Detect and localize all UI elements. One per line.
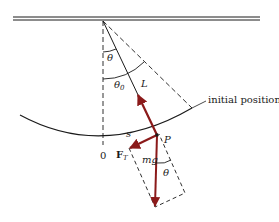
tension-vector-arrow — [138, 95, 157, 135]
pendulum-diagram: θ θ0 L initial position s 0 P FT mg θ — [0, 0, 279, 222]
theta-bottom-angle-arc — [157, 160, 171, 163]
ceiling-support — [13, 17, 260, 20]
initial-position-line — [103, 21, 192, 108]
length-label: L — [140, 78, 148, 89]
theta0-label: θ0 — [114, 79, 125, 92]
weight-label: mg — [142, 154, 158, 165]
arc-length-label: s — [126, 128, 131, 139]
bob-point — [155, 133, 159, 137]
origin-label: 0 — [100, 150, 106, 161]
weight-vector-arrow — [155, 135, 157, 206]
theta-bottom-label: θ — [163, 167, 169, 178]
point-p-label: P — [163, 134, 171, 145]
tangential-force-arrow — [130, 135, 157, 148]
initial-position-leader — [192, 101, 206, 108]
initial-position-label: initial position — [208, 94, 279, 105]
swing-arc — [20, 108, 192, 136]
tension-force-label: FT — [116, 149, 129, 162]
theta-label: θ — [107, 52, 113, 63]
